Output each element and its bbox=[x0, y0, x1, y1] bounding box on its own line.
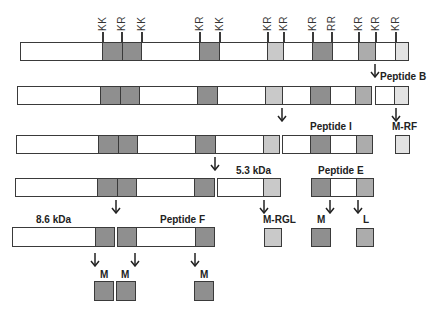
precursor-bar bbox=[16, 135, 280, 154]
cleavage-tick bbox=[395, 32, 397, 43]
m-label: M bbox=[100, 269, 108, 280]
cleavage-tick bbox=[283, 32, 285, 43]
m-box bbox=[94, 281, 114, 301]
domain-box bbox=[195, 135, 216, 154]
domain-box bbox=[311, 178, 331, 197]
arrow-down-icon bbox=[210, 157, 220, 171]
cleavage-tick bbox=[199, 32, 201, 43]
domain-box bbox=[97, 178, 118, 197]
arrow-down-icon bbox=[259, 200, 269, 214]
cleavage-site-label: KR bbox=[390, 16, 401, 31]
m-rgl-label: M-RGL bbox=[263, 214, 296, 225]
domain-box bbox=[310, 135, 331, 154]
peptide-b-label: Peptide B bbox=[380, 71, 426, 82]
m-box bbox=[194, 281, 214, 301]
cleavage-tick bbox=[141, 32, 143, 43]
cleavage-tick bbox=[358, 32, 360, 43]
domain-box bbox=[356, 178, 374, 197]
cleavage-site-label: KR bbox=[307, 16, 318, 31]
kda-86-label: 8.6 kDa bbox=[36, 214, 71, 225]
arrow-down-icon bbox=[90, 253, 100, 267]
cleavage-tick bbox=[331, 32, 333, 43]
domain-box bbox=[118, 135, 138, 154]
domain-box bbox=[265, 86, 283, 105]
domain-box bbox=[310, 86, 331, 105]
cleavage-tick bbox=[121, 32, 123, 43]
domain-box bbox=[122, 42, 142, 61]
domain-box bbox=[356, 135, 373, 154]
cleavage-tick bbox=[267, 32, 269, 43]
domain-box bbox=[120, 86, 140, 105]
domain-box bbox=[195, 227, 215, 247]
cleavage-site-label: KK bbox=[97, 17, 108, 31]
domain-box bbox=[263, 135, 280, 154]
domain-box bbox=[312, 42, 333, 61]
domain-box bbox=[267, 42, 284, 61]
domain-box bbox=[358, 42, 376, 61]
cleavage-site-label: KR bbox=[194, 16, 205, 31]
arrow-down-icon bbox=[325, 200, 335, 214]
cleavage-site-label: KR bbox=[116, 16, 127, 31]
cleavage-site-label: KK bbox=[136, 17, 147, 31]
domain-box bbox=[194, 178, 215, 197]
cleavage-site-label: KR bbox=[262, 16, 273, 31]
cleavage-site-label: RR bbox=[326, 16, 337, 31]
cleavage-site-label: KK bbox=[214, 17, 225, 31]
domain-box bbox=[102, 42, 123, 61]
arrow-down-icon bbox=[190, 253, 200, 267]
cleavage-tick bbox=[312, 32, 314, 43]
arrow-down-icon bbox=[391, 108, 401, 122]
domain-box bbox=[100, 86, 121, 105]
cleavage-site-label: KR bbox=[278, 16, 289, 31]
domain-box bbox=[117, 178, 137, 197]
domain-box bbox=[355, 86, 372, 105]
peptide-e-label: Peptide E bbox=[318, 165, 364, 176]
arrow-down-icon bbox=[353, 200, 363, 214]
cleavage-site-label: KR bbox=[353, 16, 364, 31]
cleavage-tick bbox=[375, 32, 377, 43]
arrow-down-icon bbox=[277, 108, 287, 122]
m-label: M bbox=[121, 269, 129, 280]
domain-box bbox=[395, 42, 409, 61]
cleavage-tick bbox=[102, 32, 104, 43]
peptide-i-label: Peptide I bbox=[310, 121, 352, 132]
kda-53-label: 5.3 kDa bbox=[236, 165, 271, 176]
l-box bbox=[356, 228, 374, 247]
arrow-down-icon bbox=[370, 64, 380, 78]
m-box bbox=[311, 228, 331, 247]
m-rf-label: M-RF bbox=[392, 121, 417, 132]
arrow-down-icon bbox=[111, 200, 121, 214]
cleavage-site-label: KR bbox=[370, 16, 381, 31]
domain-box bbox=[394, 86, 409, 105]
domain-box bbox=[98, 135, 119, 154]
arrow-down-icon bbox=[130, 253, 140, 267]
m-label: M bbox=[317, 214, 325, 225]
l-label: L bbox=[363, 214, 369, 225]
domain-box bbox=[197, 86, 218, 105]
m-box bbox=[116, 281, 136, 301]
m-label: M bbox=[200, 269, 208, 280]
domain-box bbox=[199, 42, 220, 61]
m-rgl-box bbox=[264, 228, 282, 247]
cleavage-tick bbox=[219, 32, 221, 43]
domain-box bbox=[117, 227, 137, 247]
m-rf-box bbox=[395, 135, 410, 154]
peptide-f-label: Peptide F bbox=[160, 214, 205, 225]
domain-box bbox=[263, 178, 281, 197]
domain-box bbox=[95, 227, 115, 247]
